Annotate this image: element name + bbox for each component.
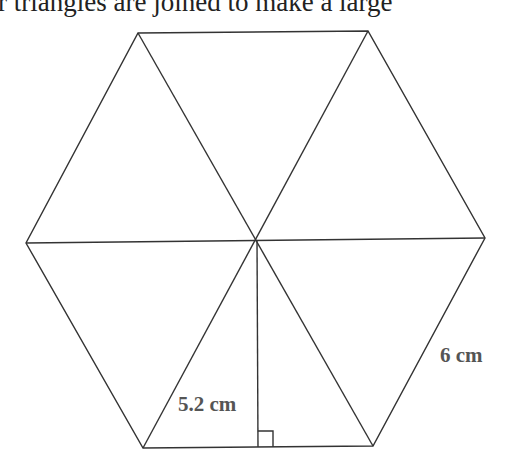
hexagon-diagram (0, 0, 517, 464)
height-label: 5.2 cm (178, 392, 236, 417)
side-length-label: 6 cm (440, 343, 483, 368)
right-angle-marker (258, 431, 273, 447)
height-line (257, 240, 258, 447)
